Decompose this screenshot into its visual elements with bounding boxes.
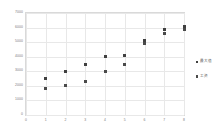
legend-item[interactable]: 工资 <box>196 75 224 79</box>
legend-item-label: 最大值 <box>200 60 212 64</box>
data-point[interactable] <box>64 70 67 73</box>
gridline-vertical <box>26 13 27 115</box>
y-axis-tick-label: 6000 <box>15 26 23 29</box>
chart-legend: 最大值工资 <box>196 60 224 89</box>
y-axis-tick-label: 5000 <box>15 40 23 43</box>
gridline-horizontal <box>26 115 184 116</box>
plot-area: 01000200030004000500060007000 012345678 <box>25 12 185 116</box>
data-point[interactable] <box>44 77 47 80</box>
legend-marker-icon <box>196 75 198 77</box>
y-axis-tick-label: 3000 <box>15 70 23 73</box>
x-axis-tick-label: 2 <box>65 119 67 122</box>
data-point[interactable] <box>64 84 67 87</box>
data-point[interactable] <box>84 80 87 83</box>
gridline-vertical <box>145 13 146 115</box>
x-axis-tick-label: 0 <box>25 119 27 122</box>
data-point[interactable] <box>84 63 87 66</box>
x-axis-tick-label: 8 <box>183 119 185 122</box>
gridline-vertical <box>46 13 47 115</box>
data-point[interactable] <box>104 70 107 73</box>
gridline-vertical <box>105 13 106 115</box>
data-point[interactable] <box>44 87 47 90</box>
x-axis-tick-label: 5 <box>124 119 126 122</box>
x-axis-tick-label: 6 <box>144 119 146 122</box>
gridline-vertical <box>66 13 67 115</box>
x-axis-tick-label: 7 <box>163 119 165 122</box>
data-point[interactable] <box>183 28 186 31</box>
data-point[interactable] <box>143 42 146 45</box>
y-axis-tick-label: 1000 <box>15 99 23 102</box>
data-point[interactable] <box>163 32 166 35</box>
x-axis-tick-label: 4 <box>104 119 106 122</box>
data-point[interactable] <box>123 54 126 57</box>
legend-marker-icon <box>196 61 198 63</box>
scatter-chart: 01000200030004000500060007000 012345678 … <box>0 0 224 139</box>
legend-item-label: 工资 <box>200 75 208 79</box>
data-point[interactable] <box>104 55 107 58</box>
y-axis-tick-label: 0 <box>21 113 23 116</box>
y-axis-tick-label: 4000 <box>15 55 23 58</box>
legend-item[interactable]: 最大值 <box>196 60 224 64</box>
data-point[interactable] <box>163 28 166 31</box>
y-axis-tick-label: 7000 <box>15 11 23 14</box>
data-point[interactable] <box>123 63 126 66</box>
x-axis-tick-label: 1 <box>45 119 47 122</box>
y-axis-tick-label: 2000 <box>15 84 23 87</box>
x-axis-tick-label: 3 <box>84 119 86 122</box>
